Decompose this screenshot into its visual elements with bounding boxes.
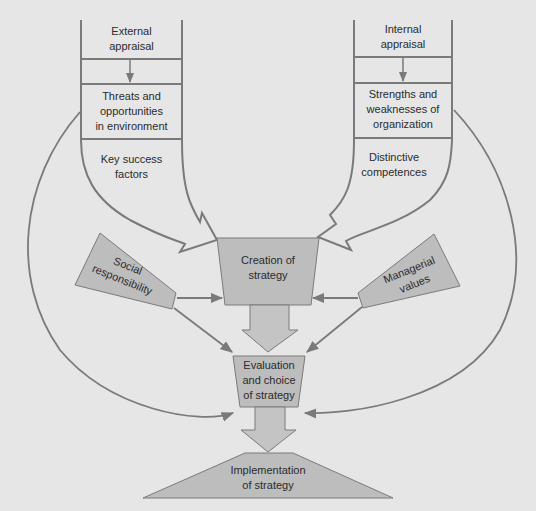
text-line: strategy [222,268,314,283]
text-line: Implementation [218,463,318,478]
threats-opportunities-label: Threats and opportunities in environment [81,89,182,134]
distinctive-competences-label: Distinctive competences [354,150,434,180]
text-line: and choice [233,373,305,388]
evaluation-choice-label: Evaluation and choice of strategy [233,358,305,403]
social-to-evaluation-arrow [174,308,232,352]
key-success-factors-label: Key success factors [81,152,182,182]
external-funnel [81,20,217,252]
evaluation-to-implementation-arrow [241,407,296,452]
text-line: organization [354,117,452,132]
creation-to-evaluation-arrow [242,305,298,352]
managerial-to-evaluation-arrow [307,307,362,352]
text-line: Strengths and [354,87,452,102]
text-line: of strategy [218,478,318,493]
text-line: Key success [81,152,182,167]
external-appraisal-label: External appraisal [81,24,182,54]
text-line: Evaluation [233,358,305,373]
text-line: weaknesses of [354,102,452,117]
internal-appraisal-label: Internal appraisal [354,22,452,52]
implementation-label: Implementation of strategy [218,463,318,493]
text-line: Creation of [222,253,314,268]
text-line: appraisal [354,37,452,52]
text-line: of strategy [233,388,305,403]
text-line: opportunities [81,104,182,119]
creation-of-strategy-label: Creation of strategy [222,253,314,283]
text-line: Internal [354,22,452,37]
text-line: competences [354,165,434,180]
text-line: External [81,24,182,39]
text-line: in environment [81,119,182,134]
text-line: Threats and [81,89,182,104]
internal-funnel [318,20,452,250]
text-line: factors [81,167,182,182]
strengths-weaknesses-label: Strengths and weaknesses of organization [354,87,452,132]
text-line: Distinctive [354,150,434,165]
text-line: appraisal [81,39,182,54]
